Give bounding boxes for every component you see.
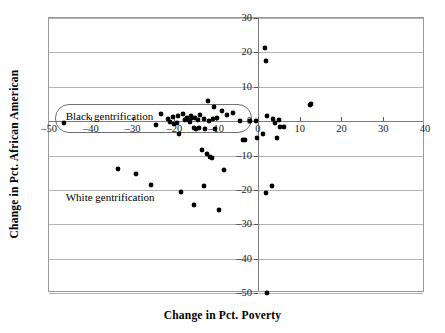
data-point (263, 46, 267, 50)
data-point (278, 125, 282, 129)
data-point (243, 138, 247, 142)
x-axis-tick-label: 10 (294, 124, 305, 135)
annotation-label-white-gentrification: White gentrification (66, 192, 155, 203)
data-point (261, 132, 265, 136)
data-point (270, 184, 274, 188)
y-axis-tick-label: 10 (241, 82, 252, 93)
y-axis-tick (254, 293, 258, 294)
data-point (62, 121, 66, 125)
data-point (264, 59, 268, 63)
data-point (282, 125, 286, 129)
data-point (210, 156, 214, 160)
x-axis-tick (341, 117, 342, 121)
data-point (215, 116, 219, 120)
data-point (134, 172, 138, 176)
data-point (179, 190, 183, 194)
x-axis-tick-label: –50 (41, 124, 57, 135)
data-point (176, 114, 180, 118)
y-axis-tick-label: –30 (236, 219, 252, 230)
x-axis-tick-label: 0 (255, 124, 260, 135)
y-axis-tick-label: –20 (236, 185, 252, 196)
x-axis-tick (258, 117, 259, 121)
data-point (200, 148, 204, 152)
y-axis-tick (254, 18, 258, 19)
scatter-chart: –50–40–30–20–100102030403020100–10–20–30… (0, 0, 445, 333)
x-axis-title: Change in Pct. Poverty (0, 309, 445, 321)
data-point (248, 119, 252, 123)
data-point (116, 167, 120, 171)
data-point (177, 132, 181, 136)
y-axis-tick-label: 20 (241, 47, 252, 58)
data-point (149, 183, 153, 187)
data-point (309, 102, 313, 106)
y-axis-tick (254, 259, 258, 260)
y-axis-title-text: Change in Pct. African American (8, 70, 20, 239)
data-point (181, 112, 185, 116)
y-axis-tick (254, 224, 258, 225)
y-axis-tick-label: –50 (236, 288, 252, 299)
y-axis-tick (254, 87, 258, 88)
x-axis-tick-label: 40 (420, 124, 431, 135)
x-axis-tick-label: 20 (336, 124, 347, 135)
gridline-horizontal (49, 52, 423, 53)
data-point (265, 291, 269, 295)
gridline-horizontal (49, 87, 423, 88)
x-axis-tick-label: 30 (378, 124, 389, 135)
data-point (175, 121, 179, 125)
annotation-label-black-gentrification: Black gentrification (66, 111, 154, 122)
y-axis-tick (254, 190, 258, 191)
data-point (188, 120, 192, 124)
data-point (192, 203, 196, 207)
plot-area: –50–40–30–20–100102030403020100–10–20–30… (48, 17, 424, 292)
x-axis-tick (383, 117, 384, 121)
y-axis-tick-label: –10 (236, 150, 252, 161)
data-point (254, 119, 258, 123)
y-axis-tick (254, 156, 258, 157)
x-axis-tick (300, 117, 301, 121)
y-axis-line (258, 18, 259, 291)
data-point (206, 99, 210, 103)
data-point (275, 136, 279, 140)
y-axis-tick (254, 52, 258, 53)
y-axis-title: Change in Pct. African American (4, 18, 24, 290)
gridline-horizontal (49, 18, 423, 19)
data-point (154, 123, 158, 127)
data-point (277, 118, 281, 122)
data-point (220, 109, 224, 113)
y-axis-tick-label: 30 (241, 13, 252, 24)
data-point (265, 114, 269, 118)
data-point (217, 208, 221, 212)
data-point (202, 184, 206, 188)
data-point (222, 168, 226, 172)
data-point (264, 191, 268, 195)
data-point (255, 136, 259, 140)
y-axis-tick-label: –40 (236, 253, 252, 264)
